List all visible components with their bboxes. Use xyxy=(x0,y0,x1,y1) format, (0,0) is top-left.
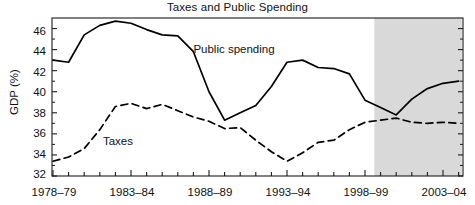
plot-area xyxy=(0,0,475,205)
chart-figure: Taxes and Public Spending GDP (%) 46 44 … xyxy=(0,0,475,205)
projections-shaded-region xyxy=(374,18,461,176)
